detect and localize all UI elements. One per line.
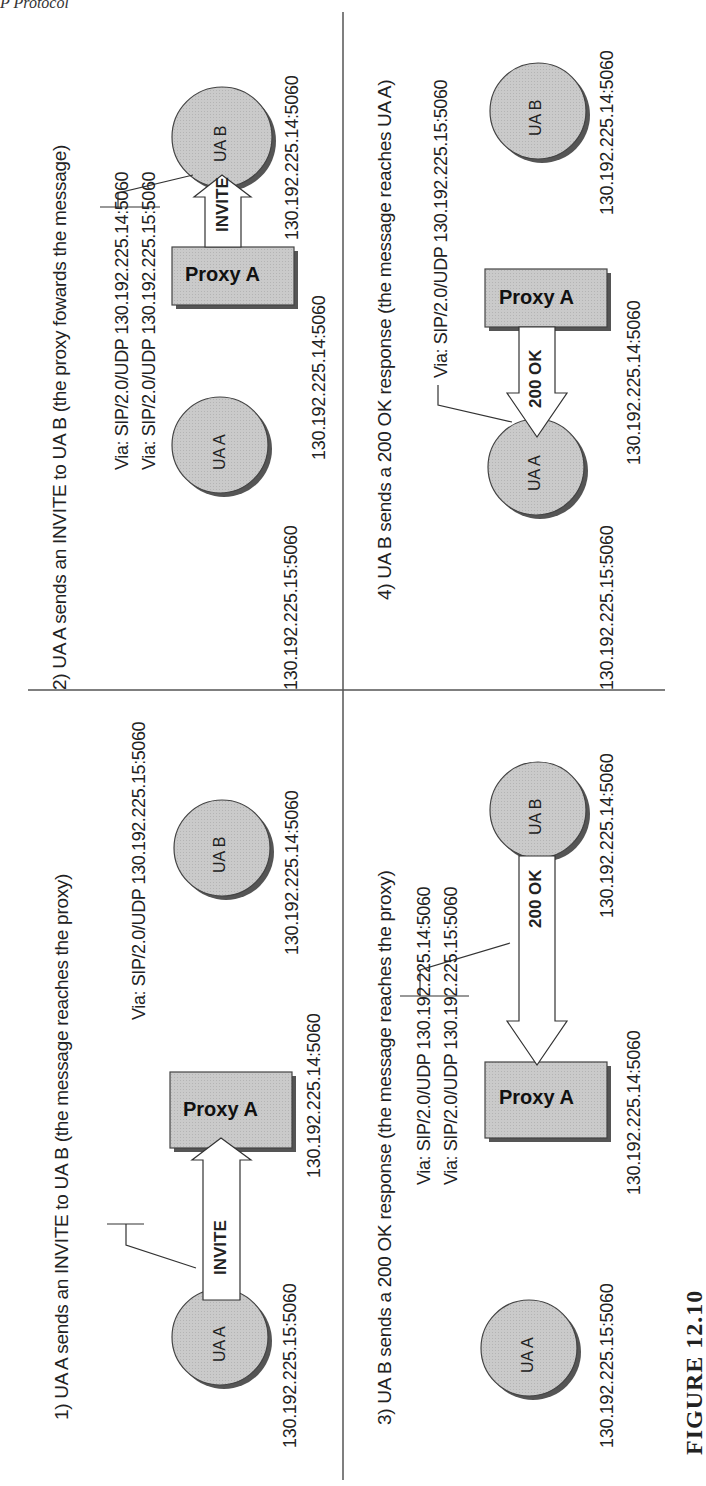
panel-3-ua-a-label: UA A [520,1337,536,1373]
panel-1-via-1: Via: SIP/2.0/UDP 130.192.225.15:5060 [130,722,148,1020]
panel-2-ua-b-label: UA B [213,126,229,162]
panel-2-proxy-label: Proxy A [185,263,260,286]
panel-3-via-1: Via: SIP/2.0/UDP 130.192.225.14:5060 [415,887,433,1185]
panel-3-proxy-label: Proxy A [499,1086,574,1109]
panel-1-ua-b-label: UA B [212,837,228,873]
panel-3-ua-a-ip: 130.192.225.15:5060 [598,1284,616,1448]
figure-page: P Protocol [0,0,706,1486]
panel-2-ua-a-label: UA A [212,434,228,470]
panel-1-ua-a-label: UA A [212,1326,228,1362]
panel-2-invite-label: INVITE [214,177,231,232]
panel-3-via-2: Via: SIP/2.0/UDP 130.192.225.15:5060 [442,887,460,1185]
panel-1-proxy-label: Proxy A [183,1098,258,1121]
diagram-shapes [0,0,706,1486]
panel-2-proxy-ip: 130.192.225.14:5060 [310,296,328,460]
panel-4-via-1: Via: SIP/2.0/UDP 130.192.225.15:5060 [432,80,450,378]
panel-4-ua-b-label: UA B [528,100,544,136]
panel-1-ua-b-ip: 130.192.225.14:5060 [283,791,301,955]
panel-1-invite-label: INVITE [212,1220,229,1275]
panel-2-ua-a-ip: 130.192.225.15:5060 [282,526,300,690]
panel-1-title: 1) UA A sends an INVITE to UA B (the mes… [52,874,71,1420]
panel-2-ua-b-ip: 130.192.225.14:5060 [283,76,301,240]
panel-4-ua-a-label: UA A [527,455,543,491]
panel-4-proxy-ip: 130.192.225.14:5060 [625,301,643,465]
panel-4-ua-a-ip: 130.192.225.15:5060 [598,526,616,690]
panel-1-proxy-ip: 130.192.225.14:5060 [305,1014,323,1178]
figure-caption: FIGURE 12.10 [682,1290,706,1455]
panel-4-ua-b-ip: 130.192.225.14:5060 [598,51,616,215]
panel-2-via-2: Via: SIP/2.0/UDP 130.192.225.15:5060 [140,172,158,470]
panel-3-title: 3) UA B sends a 200 OK response (the mes… [375,870,394,1425]
panel-4-proxy-label: Proxy A [499,286,574,309]
invite-arrow [192,1138,251,1300]
panel-3-ok-label: 200 OK [527,869,544,928]
panel-3-ua-b-label: UA B [528,799,544,835]
panel-2-title: 2) UA A sends an INVITE to UA B (the pro… [50,145,69,690]
panel-1-ua-a-ip: 130.192.225.15:5060 [281,1284,299,1448]
panel-4-title: 4) UA B sends a 200 OK response (the mes… [375,80,394,600]
panel-3-ua-b-ip: 130.192.225.14:5060 [598,754,616,918]
panel-3-proxy-ip: 130.192.225.14:5060 [625,1031,643,1195]
panel-4-ok-label: 200 OK [527,349,544,408]
panel-2-via-1: Via: SIP/2.0/UDP 130.192.225.14:5060 [113,172,131,470]
